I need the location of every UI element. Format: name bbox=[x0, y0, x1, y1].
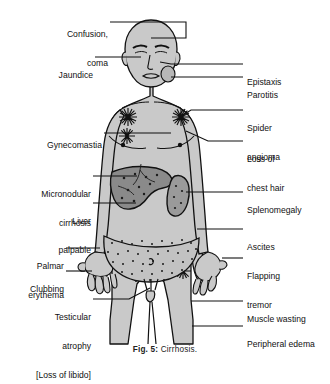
label-testicular-atrophy: Testicular atrophy [Loss of libido] bbox=[2, 294, 91, 384]
label-spider-angioma-line1: Spider bbox=[247, 124, 327, 134]
genitalia-atrophy bbox=[146, 291, 155, 302]
label-jaundice: Jaundice bbox=[4, 52, 93, 90]
label-splenomegaly-line1: Splenomegaly bbox=[247, 206, 329, 216]
label-splenomegaly: Splenomegaly bbox=[247, 187, 329, 225]
figure-caption: Fig. 5: Cirrhosis. bbox=[0, 345, 330, 354]
parotid-swelling bbox=[161, 66, 175, 82]
label-parotitis-line1: Parotitis bbox=[247, 91, 327, 101]
label-gynecomastia-line1: Gynecomastia bbox=[4, 141, 102, 151]
label-jaundice-line1: Jaundice bbox=[4, 71, 93, 81]
nipple-right bbox=[178, 143, 182, 147]
label-testicular-atrophy-line1: Testicular bbox=[2, 313, 91, 323]
label-loss-of-chest-hair-line1: Loss of bbox=[247, 155, 327, 165]
label-flapping-tremor-line1: Flapping bbox=[247, 272, 327, 282]
label-confusion-coma-line1: Confusion, bbox=[4, 30, 108, 40]
figure-caption-number: Fig. 5: bbox=[133, 345, 159, 354]
label-liver-palpable-line1: Liver bbox=[2, 217, 91, 227]
label-ascites-line1: Ascites bbox=[247, 243, 327, 253]
label-gynecomastia: Gynecomastia bbox=[4, 122, 102, 160]
figure-caption-text: Cirrhosis. bbox=[161, 345, 198, 354]
nipple-left bbox=[121, 143, 125, 147]
leader-spider-angioma bbox=[183, 110, 243, 115]
leg-cleft bbox=[148, 302, 156, 344]
label-testicular-atrophy-line3: [Loss of libido] bbox=[2, 371, 91, 381]
